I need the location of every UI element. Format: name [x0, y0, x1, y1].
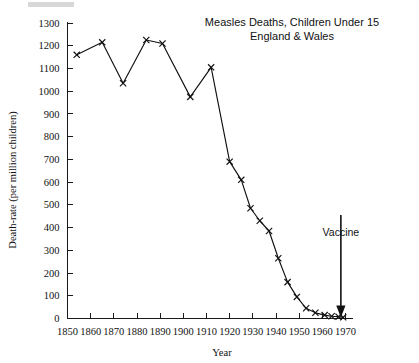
- y-tick-label: 900: [44, 109, 60, 120]
- x-tick-label: 1950: [289, 326, 310, 337]
- x-tick-label: 1910: [196, 326, 217, 337]
- chart-subtitle: England & Wales: [250, 30, 334, 42]
- chart-background: [0, 0, 419, 363]
- y-tick-label: 300: [44, 245, 60, 256]
- y-tick-label: 1100: [39, 63, 60, 74]
- x-tick-label: 1880: [127, 326, 148, 337]
- x-tick-label: 1920: [219, 326, 240, 337]
- x-tick-label: 1960: [312, 326, 333, 337]
- x-tick-label: 1940: [266, 326, 287, 337]
- x-tick-label: 1860: [80, 326, 101, 337]
- y-axis-title: Death-rate (per million children): [7, 111, 19, 249]
- x-tick-label: 1890: [150, 326, 171, 337]
- x-tick-label: 1850: [57, 326, 78, 337]
- y-tick-label: 0: [54, 313, 59, 324]
- y-tick-label: 100: [44, 290, 60, 301]
- measles-death-rate-line-chart: Measles Deaths, Children Under 15 Englan…: [0, 0, 419, 363]
- y-tick-label: 700: [44, 154, 60, 165]
- x-axis-title: Year: [212, 347, 232, 358]
- y-tick-label: 1200: [39, 40, 60, 51]
- x-tick-label: 1870: [103, 326, 124, 337]
- y-tick-label: 400: [44, 222, 60, 233]
- y-tick-label: 200: [44, 268, 60, 279]
- y-tick-label: 1300: [39, 18, 60, 29]
- y-tick-label: 500: [44, 199, 60, 210]
- x-tick-label: 1970: [335, 326, 356, 337]
- x-tick-label: 1900: [173, 326, 194, 337]
- y-tick-label: 800: [44, 131, 60, 142]
- x-tick-label: 1930: [242, 326, 263, 337]
- scan-artifact-smudge: [28, 2, 74, 7]
- y-tick-label: 1000: [39, 86, 60, 97]
- chart-title: Measles Deaths, Children Under 15: [205, 16, 379, 28]
- y-tick-label: 600: [44, 177, 60, 188]
- chart-figure: Measles Deaths, Children Under 15 Englan…: [0, 0, 419, 363]
